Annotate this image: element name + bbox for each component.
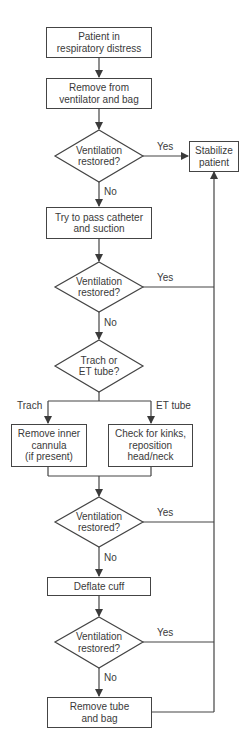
decision4-text: Ventilation restored? xyxy=(55,497,143,547)
decision1-text: Ventilation restored? xyxy=(55,130,143,182)
node-remove-ventilator: Remove from ventilator and bag xyxy=(46,78,152,109)
node-remove-ventilator-text: Remove from ventilator and bag xyxy=(59,82,139,105)
node-remove-tube: Remove tube and bag xyxy=(47,697,152,728)
node-catheter: Try to pass catheter and suction xyxy=(46,207,152,239)
node-trach-action-text: Remove inner cannula (if present) xyxy=(18,428,80,463)
node-deflate-cuff: Deflate cuff xyxy=(47,577,151,596)
node-stabilize-text: Stabilize patient xyxy=(195,145,233,168)
node-remove-tube-text: Remove tube and bag xyxy=(70,701,129,724)
node-et-action-text: Check for kinks, reposition head/neck xyxy=(115,428,186,463)
node-start-text: Patient in respiratory distress xyxy=(57,31,141,54)
label-yes-1: Yes xyxy=(157,141,173,152)
node-start: Patient in respiratory distress xyxy=(46,27,152,58)
node-stabilize: Stabilize patient xyxy=(189,141,239,172)
node-catheter-text: Try to pass catheter and suction xyxy=(55,212,143,235)
decision2-text: Ventilation restored? xyxy=(55,262,143,312)
node-trach-action: Remove inner cannula (if present) xyxy=(11,424,87,467)
label-et-tube: ET tube xyxy=(156,400,191,411)
label-no-5: No xyxy=(104,672,117,683)
label-trach: Trach xyxy=(17,400,42,411)
node-et-action: Check for kinks, reposition head/neck xyxy=(108,424,193,467)
label-no-2: No xyxy=(104,317,117,328)
label-yes-2: Yes xyxy=(157,272,173,283)
decision5-text: Ventilation restored? xyxy=(55,617,143,668)
label-no-4: No xyxy=(104,552,117,563)
label-yes-5: Yes xyxy=(157,627,173,638)
decision3-text: Trach or ET tube? xyxy=(55,340,143,392)
label-no-1: No xyxy=(104,186,117,197)
label-yes-4: Yes xyxy=(157,507,173,518)
node-deflate-cuff-text: Deflate cuff xyxy=(74,581,124,593)
